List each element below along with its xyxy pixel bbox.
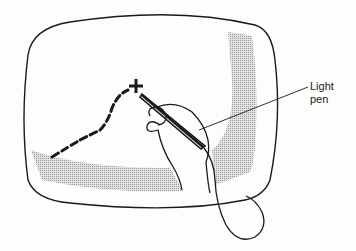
- shaded-region-right: [212, 32, 257, 185]
- cross-cursor-icon: [129, 79, 143, 93]
- light-pen-diagram: Light pen: [0, 0, 356, 251]
- light-pen-label: Light pen: [310, 80, 334, 106]
- dashed-trace: [52, 90, 128, 157]
- light-pen-label-line-2: pen: [310, 93, 334, 106]
- diagram-drawing: [0, 0, 356, 251]
- light-pen-label-line-1: Light: [310, 80, 334, 93]
